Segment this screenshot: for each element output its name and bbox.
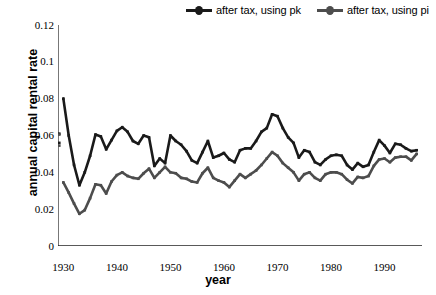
series-point: [132, 177, 135, 180]
y-tick-label: 0.06: [10, 130, 54, 141]
series-point: [351, 168, 354, 171]
series-point: [410, 159, 413, 162]
series-point: [373, 151, 376, 154]
series-point: [105, 192, 108, 195]
series-point: [367, 164, 370, 167]
series-point: [292, 171, 295, 174]
series-point: [255, 140, 258, 143]
series-point: [383, 144, 386, 147]
chart-legend: after tax, using pk after tax, using pi: [186, 1, 436, 19]
series-point: [126, 131, 129, 134]
series-point: [164, 162, 167, 165]
series-point: [62, 97, 65, 100]
series-point: [67, 191, 70, 194]
legend-marker-pk: [186, 6, 212, 15]
series-point: [137, 177, 140, 180]
series-point: [276, 115, 279, 118]
series-point: [126, 175, 129, 178]
series-point: [367, 175, 370, 178]
series-point: [351, 182, 354, 185]
series-point: [191, 159, 194, 162]
series-point: [399, 155, 402, 158]
series-point: [319, 164, 322, 167]
legend-marker-pi: [317, 6, 343, 15]
series-point: [78, 212, 81, 215]
series-point: [244, 147, 247, 150]
series-point: [207, 140, 210, 143]
series-point: [201, 172, 204, 175]
series-point: [89, 197, 92, 200]
series-point: [217, 154, 220, 157]
series-point: [169, 134, 172, 137]
series-line: [63, 152, 416, 214]
series-point: [356, 162, 359, 165]
series-point: [180, 143, 183, 146]
series-point: [89, 154, 92, 157]
series-point: [158, 157, 161, 160]
series-point: [148, 136, 151, 139]
series-point: [324, 158, 327, 161]
series-point: [233, 161, 236, 164]
series-point: [121, 171, 124, 174]
series-point: [100, 135, 103, 138]
series-point: [142, 134, 145, 137]
series-pk: [58, 97, 418, 186]
legend-label-pk: after tax, using pk: [216, 5, 301, 16]
series-point: [78, 184, 81, 187]
series-point: [201, 151, 204, 154]
series-point: [132, 140, 135, 143]
series-line: [63, 99, 416, 186]
series-point: [73, 202, 76, 205]
series-point: [223, 152, 226, 155]
series-point: [153, 165, 156, 168]
series-point: [153, 177, 156, 180]
series-point: [158, 171, 161, 174]
series-point: [94, 133, 97, 136]
x-tick-label: 1980: [311, 262, 351, 273]
series-point: [362, 177, 365, 180]
series-point: [116, 130, 119, 133]
series-point: [180, 177, 183, 180]
series-point: [394, 156, 397, 159]
series-point: [58, 144, 61, 147]
series-point: [346, 164, 349, 167]
series-point: [83, 171, 86, 174]
series-point: [308, 151, 311, 154]
series-point: [356, 176, 359, 179]
series-point: [282, 162, 285, 165]
legend-dot-pi: [326, 6, 334, 15]
series-point: [324, 173, 327, 176]
series-point: [212, 177, 215, 180]
series-point: [94, 183, 97, 186]
series-point: [265, 157, 268, 160]
x-axis-title: year: [0, 273, 436, 287]
y-tick-label: 0.12: [10, 20, 54, 31]
series-point: [308, 171, 311, 174]
series-point: [415, 153, 418, 156]
series-point: [249, 173, 252, 176]
series-point: [330, 171, 333, 174]
plot-svg: [58, 25, 422, 246]
series-point: [303, 149, 306, 152]
series-point: [378, 139, 381, 142]
series-point: [394, 142, 397, 145]
series-point: [67, 134, 70, 137]
y-tick-label: 0.04: [10, 167, 54, 178]
x-tick-label: 1940: [97, 262, 137, 273]
series-point: [271, 151, 274, 154]
legend-entry-pk: after tax, using pk: [186, 5, 301, 16]
series-point: [298, 156, 301, 159]
series-point: [239, 173, 242, 176]
series-point: [319, 179, 322, 182]
x-tick-label: 1960: [204, 262, 244, 273]
series-point: [58, 142, 61, 145]
series-pi: [58, 133, 418, 215]
x-tick-label: 1970: [257, 262, 297, 273]
series-point: [228, 186, 231, 189]
series-point: [362, 166, 365, 169]
series-point: [196, 181, 199, 184]
series-point: [335, 154, 338, 157]
series-point: [174, 140, 177, 143]
series-point: [185, 177, 188, 180]
series-point: [217, 179, 220, 182]
